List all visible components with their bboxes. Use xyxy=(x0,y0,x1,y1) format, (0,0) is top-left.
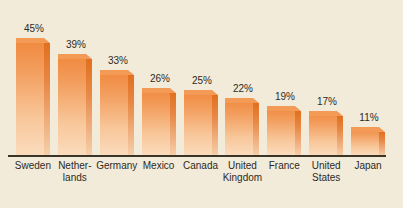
bar-value-label: 45% xyxy=(17,23,51,34)
bar-value-label: 11% xyxy=(352,112,386,123)
bar-front-face xyxy=(58,54,86,156)
bar-side-face xyxy=(170,93,176,156)
bar-front-face xyxy=(184,90,212,156)
bar-side-face xyxy=(337,116,343,156)
bar-value-label: 33% xyxy=(101,55,135,66)
bar-chart-figure: · · · 45%39%33%26%25%22%19%17%11% Sweden… xyxy=(0,0,403,208)
bar-value-label: 39% xyxy=(59,39,93,50)
category-label-line: Japan xyxy=(343,160,393,172)
bar-top-face xyxy=(184,90,212,95)
bar-group xyxy=(100,70,134,156)
bar-value-label: 22% xyxy=(226,83,260,94)
bar-group xyxy=(16,38,50,156)
bar-front-face xyxy=(16,38,44,156)
bar-side-face xyxy=(128,75,134,156)
category-label-line: lands xyxy=(50,172,100,184)
bar-group xyxy=(184,90,218,156)
bar-side-face xyxy=(295,111,301,156)
bar-value-label: 17% xyxy=(310,96,344,107)
bar-side-face xyxy=(379,132,385,156)
bar-group xyxy=(58,54,92,156)
x-axis-line xyxy=(8,155,386,157)
bar-front-face xyxy=(225,98,253,156)
bar-top-face xyxy=(142,88,170,93)
bar-value-label: 19% xyxy=(268,91,302,102)
bar-side-face xyxy=(44,43,50,156)
bar-group xyxy=(267,106,301,156)
bar-top-face xyxy=(267,106,295,111)
bar-top-face xyxy=(100,70,128,75)
bar-group xyxy=(225,98,259,156)
category-axis-labels: SwedenNether-landsGermanyMexicoCanadaUni… xyxy=(0,160,403,204)
bar-side-face xyxy=(86,59,92,156)
bar-top-face xyxy=(225,98,253,103)
bar-value-label: 25% xyxy=(185,75,219,86)
bar-top-face xyxy=(58,54,86,59)
bar-side-face xyxy=(253,103,259,156)
bar-front-face xyxy=(267,106,295,156)
category-label: Japan xyxy=(343,160,393,172)
bar-side-face xyxy=(212,95,218,156)
bar-group xyxy=(351,127,385,156)
category-label-line: States xyxy=(301,172,351,184)
bar-top-face xyxy=(309,111,337,116)
bar-group xyxy=(142,88,176,156)
bar-front-face xyxy=(309,111,337,156)
plot-area: 45%39%33%26%25%22%19%17%11% xyxy=(0,0,403,156)
bar-front-face xyxy=(142,88,170,156)
category-label-line: Kingdom xyxy=(217,172,267,184)
bar-group xyxy=(309,111,343,156)
bar-front-face xyxy=(100,70,128,156)
bar-top-face xyxy=(351,127,379,132)
bar-top-face xyxy=(16,38,44,43)
bar-value-label: 26% xyxy=(143,73,177,84)
